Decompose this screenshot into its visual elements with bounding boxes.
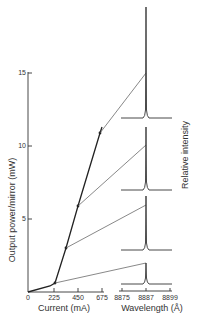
- wl-tick-8875: 8875: [114, 294, 130, 301]
- li-axes: [28, 72, 104, 292]
- x-tick-675: 675: [96, 294, 108, 301]
- wl-tick-8899: 8899: [162, 294, 178, 301]
- x-axis-title: Current (mA): [38, 303, 90, 313]
- li-curve: [28, 127, 102, 292]
- x-tick-225: 225: [48, 294, 60, 301]
- x-tick-450: 450: [72, 294, 84, 301]
- spectrum-4: [121, 263, 172, 284]
- spectrum-2: [121, 127, 172, 190]
- y-tick-15: 15: [18, 69, 26, 76]
- y-tick-10: 10: [18, 142, 26, 149]
- spectrum-3: [121, 196, 172, 250]
- laser-characteristics-chart: 15 10 5 0 225 450 675 Current (mA) Outpu…: [0, 0, 210, 329]
- y-axis-title: Output power/mirror (mW): [7, 158, 17, 263]
- wavelength-axis-title: Wavelength (Å): [121, 303, 183, 313]
- x-tick-0: 0: [26, 294, 30, 301]
- connector-lines: [55, 73, 146, 283]
- spectrum-1: [121, 7, 172, 118]
- relative-intensity-title: Relative intensity: [180, 120, 190, 189]
- wl-tick-8887: 8887: [138, 294, 154, 301]
- spectra: [119, 7, 172, 291]
- y-tick-5: 5: [22, 215, 26, 222]
